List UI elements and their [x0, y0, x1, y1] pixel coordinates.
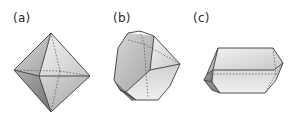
elongated-prism-shape: [204, 48, 283, 93]
crystal-shapes-figure: [0, 0, 293, 122]
truncated-polyhedron-shape: [114, 31, 180, 101]
octahedron-shape: [14, 33, 90, 112]
